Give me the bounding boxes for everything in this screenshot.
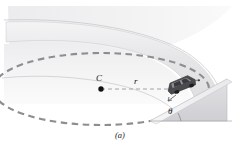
center-dot-icon — [98, 86, 103, 91]
center-label: C — [96, 74, 102, 83]
figure-caption: (a) — [0, 130, 240, 140]
figure-illustration — [0, 0, 240, 147]
radius-label: r — [134, 77, 138, 86]
bank-angle-label: θ — [168, 107, 172, 116]
banked-curve-figure: C r θ (a) — [0, 0, 240, 147]
